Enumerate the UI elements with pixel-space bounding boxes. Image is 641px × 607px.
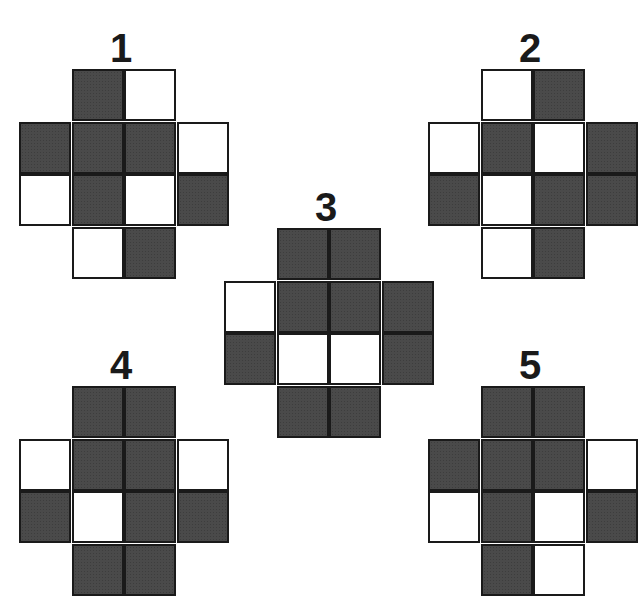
filled-cell — [481, 491, 533, 543]
filled-cell — [124, 439, 176, 491]
empty-cell — [19, 439, 71, 491]
filled-cell — [481, 122, 533, 174]
filled-cell — [19, 491, 71, 543]
filled-cell — [72, 439, 124, 491]
filled-cell — [277, 281, 329, 333]
filled-cell — [177, 174, 229, 226]
empty-cell — [481, 69, 533, 121]
empty-cell — [586, 439, 638, 491]
empty-cell — [533, 544, 585, 596]
filled-cell — [533, 386, 585, 438]
filled-cell — [586, 122, 638, 174]
puzzle-label: 4 — [91, 345, 151, 385]
filled-cell — [481, 544, 533, 596]
empty-cell — [224, 281, 276, 333]
filled-cell — [124, 386, 176, 438]
filled-cell — [586, 491, 638, 543]
filled-cell — [481, 386, 533, 438]
empty-cell — [124, 69, 176, 121]
empty-cell — [481, 227, 533, 279]
filled-cell — [329, 281, 381, 333]
filled-cell — [124, 122, 176, 174]
filled-cell — [177, 491, 229, 543]
empty-cell — [428, 491, 480, 543]
empty-cell — [124, 174, 176, 226]
filled-cell — [329, 228, 381, 280]
puzzle-label: 2 — [500, 28, 560, 68]
filled-cell — [382, 281, 434, 333]
empty-cell — [533, 122, 585, 174]
filled-cell — [72, 174, 124, 226]
filled-cell — [533, 227, 585, 279]
empty-cell — [177, 439, 229, 491]
filled-cell — [481, 439, 533, 491]
empty-cell — [277, 333, 329, 385]
filled-cell — [533, 439, 585, 491]
puzzle-label: 3 — [296, 187, 356, 227]
filled-cell — [124, 544, 176, 596]
filled-cell — [72, 386, 124, 438]
empty-cell — [428, 122, 480, 174]
filled-cell — [428, 174, 480, 226]
filled-cell — [533, 69, 585, 121]
filled-cell — [19, 122, 71, 174]
puzzle-label: 5 — [500, 345, 560, 385]
filled-cell — [277, 386, 329, 438]
filled-cell — [533, 174, 585, 226]
empty-cell — [19, 174, 71, 226]
filled-cell — [72, 69, 124, 121]
empty-cell — [533, 491, 585, 543]
filled-cell — [124, 491, 176, 543]
filled-cell — [224, 333, 276, 385]
filled-cell — [382, 333, 434, 385]
empty-cell — [177, 122, 229, 174]
empty-cell — [329, 333, 381, 385]
filled-cell — [329, 386, 381, 438]
empty-cell — [72, 491, 124, 543]
filled-cell — [428, 439, 480, 491]
filled-cell — [586, 174, 638, 226]
puzzle-label: 1 — [91, 28, 151, 68]
filled-cell — [277, 228, 329, 280]
empty-cell — [481, 174, 533, 226]
filled-cell — [72, 122, 124, 174]
filled-cell — [124, 227, 176, 279]
empty-cell — [72, 227, 124, 279]
filled-cell — [72, 544, 124, 596]
